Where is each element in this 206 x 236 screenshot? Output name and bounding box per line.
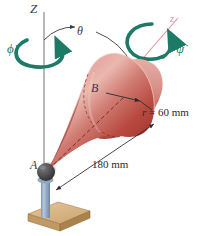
label-slant-dimension: 180 mm	[92, 159, 128, 170]
figure-canvas	[0, 0, 206, 236]
label-vertical-axis-Z: Z	[30, 2, 37, 15]
label-nutation-angle-theta: θ	[77, 25, 83, 37]
label-apex-point-A: A	[30, 159, 37, 171]
wooden-base	[28, 202, 90, 231]
label-precession-rate-phi-dot: ϕ̇	[7, 42, 14, 55]
label-radius-dimension: r = 60 mm	[142, 107, 189, 118]
label-spin-rate-psi-dot: ψ̇	[176, 42, 184, 55]
label-cone-axis-z: z	[170, 14, 174, 24]
radius-value-text: = 60 mm	[146, 106, 189, 118]
joint-sphere	[37, 163, 55, 181]
mechanics-figure: Z z θ ϕ̇ ψ̇ A B r = 60 mm 180 mm	[0, 0, 206, 236]
label-base-center-point-B: B	[91, 82, 98, 94]
spin-arrow-psi-dot	[127, 24, 172, 59]
precession-arrow-phi-dot	[16, 40, 63, 67]
